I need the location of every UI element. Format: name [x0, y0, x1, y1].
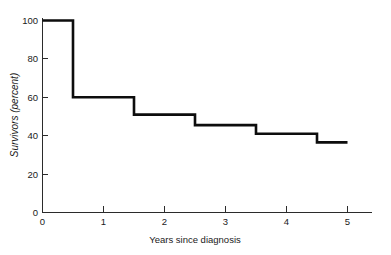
- y-tick-label-40: 40: [27, 130, 38, 141]
- y-axis-title: Survivors (percent): [9, 73, 20, 157]
- y-tick-label-80: 80: [27, 53, 38, 64]
- survival-chart-figure: 0 20 40 60 80 100 0 1 2 3 4 5 Years sinc…: [0, 0, 391, 255]
- y-axis-ticks: [43, 21, 49, 213]
- x-tick-label-5: 5: [345, 216, 350, 227]
- y-tick-label-0: 0: [33, 207, 38, 218]
- x-axis-ticks: [43, 206, 348, 213]
- x-axis-title: Years since diagnosis: [149, 234, 241, 245]
- y-tick-label-100: 100: [22, 15, 38, 26]
- axes-group: [43, 18, 373, 213]
- y-tick-label-20: 20: [27, 169, 38, 180]
- survival-step-curve: [43, 21, 348, 143]
- x-axis-tick-labels: 0 1 2 3 4 5: [40, 216, 350, 227]
- y-tick-label-60: 60: [27, 92, 38, 103]
- x-tick-label-4: 4: [284, 216, 289, 227]
- y-axis-tick-labels: 0 20 40 60 80 100: [22, 15, 38, 218]
- x-tick-label-3: 3: [223, 216, 228, 227]
- x-tick-label-0: 0: [40, 216, 45, 227]
- survival-plot-svg: 0 20 40 60 80 100 0 1 2 3 4 5 Years sinc…: [0, 0, 391, 255]
- x-tick-label-1: 1: [101, 216, 106, 227]
- x-tick-label-2: 2: [162, 216, 167, 227]
